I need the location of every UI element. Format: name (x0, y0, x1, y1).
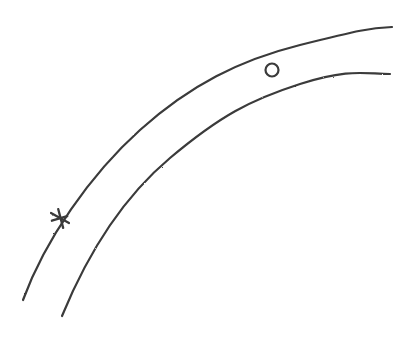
sketch-svg (0, 0, 413, 340)
outer-arc (23, 27, 392, 300)
inner-arc (62, 73, 390, 316)
small-circle-marker (266, 64, 279, 77)
